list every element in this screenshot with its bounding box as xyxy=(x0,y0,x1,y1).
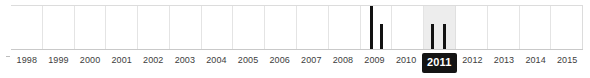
axis-tick-label: 2004 xyxy=(206,55,226,66)
timeline-columns xyxy=(11,6,583,49)
timeline-bar-2011-late[interactable] xyxy=(443,24,446,49)
timeline-column-2015[interactable] xyxy=(551,6,583,49)
axis-tick-2001[interactable]: 2001 xyxy=(106,50,138,74)
axis-tick-label: 2008 xyxy=(333,55,353,66)
timeline-column-2007[interactable] xyxy=(297,6,329,49)
axis-tick-1999[interactable]: 1999 xyxy=(43,50,75,74)
axis-tick-2013[interactable]: 2013 xyxy=(488,50,520,74)
timeline-column-2003[interactable] xyxy=(170,6,202,49)
axis-tick-2009[interactable]: 2009 xyxy=(359,50,391,74)
timeline-column-2008[interactable] xyxy=(329,6,361,49)
axis-tick-label: 2001 xyxy=(111,55,131,66)
timeline-bar-2009-late[interactable] xyxy=(380,24,383,49)
timeline-plot-area xyxy=(11,5,583,50)
axis-tick-2012[interactable]: 2012 xyxy=(457,50,489,74)
axis-tick-2004[interactable]: 2004 xyxy=(201,50,233,74)
axis-tick-2006[interactable]: 2006 xyxy=(264,50,296,74)
timeline-bar-2009-early[interactable] xyxy=(370,6,373,49)
axis-tick-label: 2012 xyxy=(462,55,482,66)
selected-year-badge: 2011 xyxy=(422,53,457,73)
axis-tick-2010[interactable]: 2010 xyxy=(390,50,422,74)
axis-tick-2014[interactable]: 2014 xyxy=(520,50,552,74)
timeline-column-2013[interactable] xyxy=(488,6,520,49)
timeline-column-2014[interactable] xyxy=(520,6,552,49)
axis-tick-label: 2006 xyxy=(269,55,289,66)
axis-tick-label: 2013 xyxy=(494,55,514,66)
axis-tick-label: 2003 xyxy=(175,55,195,66)
timeline-column-1998[interactable] xyxy=(11,6,43,49)
timeline-column-1999[interactable] xyxy=(43,6,75,49)
axis-tick-label: 2015 xyxy=(557,55,577,66)
axis-tick-label: 1999 xyxy=(48,55,68,66)
axis-tick-label: 2002 xyxy=(143,55,163,66)
axis-tick-2005[interactable]: 2005 xyxy=(232,50,264,74)
timeline-column-2006[interactable] xyxy=(265,6,297,49)
timeline-column-2005[interactable] xyxy=(233,6,265,49)
axis-tick-2007[interactable]: 2007 xyxy=(295,50,327,74)
timeline-column-2010[interactable] xyxy=(392,6,424,49)
axis-tick-label: 1998 xyxy=(17,55,37,66)
timeline-column-2002[interactable] xyxy=(138,6,170,49)
timeline-column-2000[interactable] xyxy=(75,6,107,49)
axis-tick-2008[interactable]: 2008 xyxy=(327,50,359,74)
timeline-axis-labels: 1998199920002001200220032004200520062007… xyxy=(11,50,583,74)
axis-tick-2002[interactable]: 2002 xyxy=(137,50,169,74)
axis-tick-label: 2009 xyxy=(364,55,384,66)
axis-tick-label: 2010 xyxy=(396,55,416,66)
axis-tick-2003[interactable]: 2003 xyxy=(169,50,201,74)
timeline-column-2011[interactable] xyxy=(424,6,456,49)
axis-tick-label: 2007 xyxy=(301,55,321,66)
axis-tick-2000[interactable]: 2000 xyxy=(74,50,106,74)
timeline-column-2009[interactable] xyxy=(361,6,393,49)
axis-tick-2011[interactable]: 2011 xyxy=(422,50,457,74)
timeline-column-2012[interactable] xyxy=(456,6,488,49)
axis-tick-label: 2005 xyxy=(238,55,258,66)
axis-start-tick xyxy=(6,56,10,57)
timeline-column-2004[interactable] xyxy=(202,6,234,49)
axis-tick-1998[interactable]: 1998 xyxy=(11,50,43,74)
axis-tick-2015[interactable]: 2015 xyxy=(551,50,583,74)
year-timeline-filter[interactable]: 1998199920002001200220032004200520062007… xyxy=(0,0,590,78)
timeline-column-2001[interactable] xyxy=(106,6,138,49)
timeline-bar-2011-early[interactable] xyxy=(431,24,434,49)
axis-tick-label: 2014 xyxy=(525,55,545,66)
axis-tick-label: 2000 xyxy=(80,55,100,66)
